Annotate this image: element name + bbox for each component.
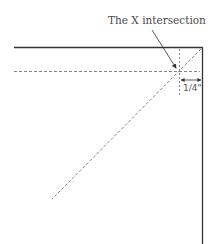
- callout-leader-arrow: [152, 30, 176, 68]
- dimension-label: 1/4": [183, 83, 202, 93]
- diagram-canvas: The X intersection 1/4": [0, 0, 216, 244]
- callout-label: The X intersection: [108, 14, 206, 26]
